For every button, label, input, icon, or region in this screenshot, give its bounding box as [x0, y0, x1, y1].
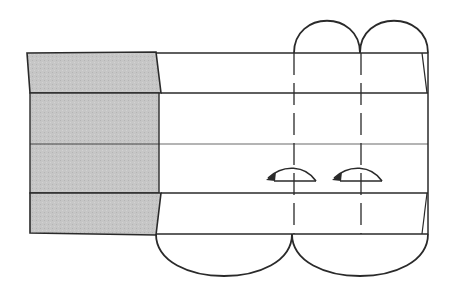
- folding-diagram: [0, 0, 454, 293]
- fold-arrows: [266, 168, 382, 181]
- bottom-flaps: [156, 234, 428, 276]
- right-edge-upper-taper: [422, 53, 427, 93]
- top-flaps: [294, 21, 428, 53]
- right-edge-lower-taper: [422, 193, 427, 234]
- shaded-band-4: [30, 193, 161, 235]
- fold-arrow-right-icon: [332, 168, 382, 181]
- shaded-band-2-3: [30, 93, 159, 193]
- band-lines: [156, 53, 428, 234]
- bottom-flap-right: [292, 234, 428, 276]
- top-flap-right: [360, 21, 428, 53]
- shaded-panel: [27, 52, 161, 235]
- fold-arrow-left-icon: [266, 168, 316, 181]
- shaded-band-1: [27, 52, 161, 93]
- valley-fold-lines: [294, 53, 361, 234]
- top-flap-left: [294, 21, 360, 53]
- bottom-flap-left: [156, 234, 292, 276]
